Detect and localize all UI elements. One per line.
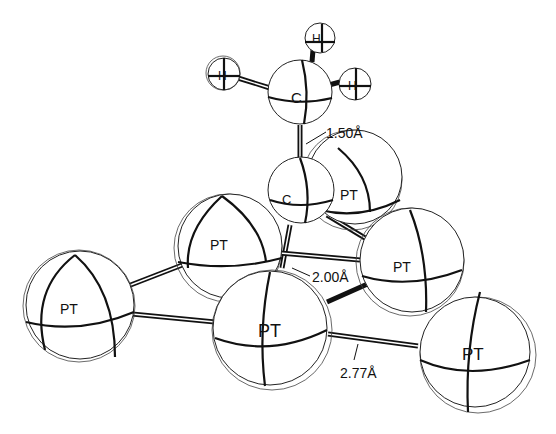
svg-text:PT: PT (340, 187, 358, 203)
svg-text:1.50Å: 1.50Å (326, 125, 363, 141)
atom-pt-far-right: PT (420, 292, 536, 413)
svg-text:C: C (282, 192, 291, 207)
svg-text:C: C (291, 89, 302, 106)
svg-text:2.00Å: 2.00Å (312, 269, 349, 285)
svg-text:PT: PT (393, 259, 411, 275)
atom-h2: H (305, 23, 335, 53)
svg-text:2.77Å: 2.77Å (340, 365, 377, 381)
svg-text:PT: PT (462, 345, 484, 364)
svg-text:H: H (218, 69, 227, 83)
molecule-diagram: PT PT PT C PT PT (0, 0, 556, 434)
svg-text:PT: PT (60, 301, 78, 317)
atom-c-bound: C (268, 157, 334, 223)
svg-text:PT: PT (258, 321, 281, 341)
atom-h1: H (206, 56, 240, 90)
svg-text:H: H (348, 79, 357, 93)
atom-c-methyl: C (268, 60, 332, 124)
atom-h3: H (339, 68, 371, 100)
svg-text:PT: PT (210, 237, 228, 253)
atom-pt-far-left: PT (23, 250, 135, 362)
measurement-pt-pt: 2.77Å (340, 344, 377, 381)
atom-pt-right-mid: PT (356, 208, 464, 316)
atom-pt-front: PT (212, 270, 332, 390)
svg-text:H: H (312, 32, 321, 46)
